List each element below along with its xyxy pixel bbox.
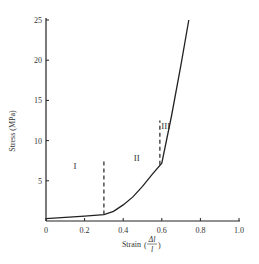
x-tick-label: 0.2 [80,226,90,235]
x-tick-label: 0.6 [157,226,167,235]
region-label-I: I [73,161,76,171]
y-ticks: 510152025 [34,16,49,186]
x-axis-title: Strain ( Δl l ) [122,235,161,254]
x-tick-label: 0.4 [118,226,128,235]
y-tick-label: 20 [34,56,42,65]
x-axis-title-denominator: l [151,245,154,254]
y-tick-label: 15 [34,96,42,105]
y-tick-label: 10 [34,137,42,146]
y-tick-label: 5 [38,177,42,186]
y-tick-label: 25 [34,16,42,25]
y-axis-title: Stress (MPa) [8,110,17,152]
x-axis-title-paren-close: ) [158,241,161,250]
x-axis-title-numerator: Δl [148,235,157,244]
x-tick-label: 0 [44,226,48,235]
x-tick-label: 0.8 [195,226,205,235]
x-axis-title-text: Strain [122,240,141,249]
annotations: IIIIII [73,121,170,215]
stress-strain-chart: 00.20.40.60.81.0 510152025 IIIIII Stress… [0,0,259,264]
x-axis-title-paren-open: ( [144,241,147,250]
stress-strain-curve [46,20,189,219]
region-label-II: II [134,153,140,163]
axes [46,18,240,221]
x-tick-label: 1.0 [234,226,244,235]
